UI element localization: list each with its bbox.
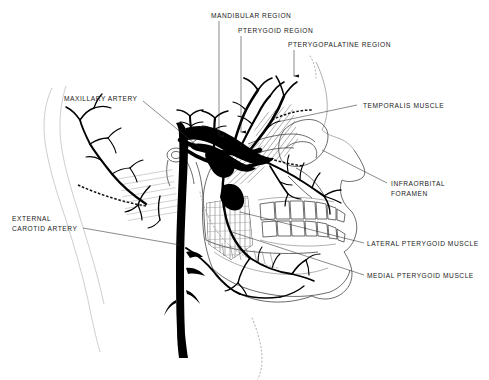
suture-dashed-lines bbox=[78, 110, 312, 206]
leader-external-carotid-artery bbox=[83, 228, 180, 245]
label-infraorbital-foramen-line2: FORAMEN bbox=[391, 190, 428, 197]
label-pterygopalatine-region: PTERYGOPALATINE REGION bbox=[288, 41, 391, 48]
label-medial-pterygoid-muscle: MEDIAL PTERYGOID MUSCLE bbox=[367, 272, 474, 279]
superficial-temporal-artery bbox=[66, 94, 146, 204]
lower-dental-arch bbox=[260, 221, 345, 246]
anatomical-figure: MANDIBULAR REGION PTERYGOID REGION PTERY… bbox=[0, 0, 489, 380]
anatomy-illustration: MANDIBULAR REGION PTERYGOID REGION PTERY… bbox=[0, 0, 489, 380]
label-temporalis-muscle: TEMPORALIS MUSCLE bbox=[363, 102, 444, 109]
leader-infraorbital-foramen bbox=[322, 150, 387, 183]
label-external-carotid-artery-line2: CAROTID ARTERY bbox=[12, 225, 77, 232]
label-infraorbital-foramen-line1: INFRAORBITAL bbox=[391, 180, 445, 187]
label-mandibular-region: MANDIBULAR REGION bbox=[211, 12, 291, 19]
label-maxillary-artery: MAXILLARY ARTERY bbox=[64, 95, 138, 102]
label-external-carotid-artery-line1: EXTERNAL bbox=[12, 215, 51, 222]
label-lateral-pterygoid-muscle: LATERAL PTERYGOID MUSCLE bbox=[367, 240, 479, 247]
skull-profile-outline bbox=[186, 62, 365, 302]
upper-dental-arch bbox=[258, 197, 345, 222]
label-pterygoid-region: PTERYGOID REGION bbox=[238, 27, 313, 34]
